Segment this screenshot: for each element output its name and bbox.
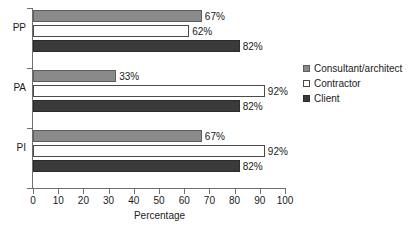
x-tick — [209, 189, 210, 194]
y-tick — [27, 8, 33, 9]
legend-item-consultant[interactable]: Consultant/architect — [303, 62, 402, 75]
bar-pi-client[interactable] — [33, 160, 240, 172]
chart-legend: Consultant/architectContractorClient — [303, 62, 402, 107]
bar-value-pi-contractor: 92% — [266, 146, 289, 158]
x-tick-label: 10 — [45, 195, 71, 207]
bar-pi-contractor[interactable] — [33, 145, 265, 157]
bar-value-pi-consultant: 67% — [203, 131, 226, 143]
x-axis-title: Percentage — [33, 210, 286, 222]
bar-value-pp-client: 82% — [241, 41, 264, 53]
x-tick — [109, 189, 110, 194]
legend-swatch-icon-client — [303, 95, 310, 102]
bar-pa-consultant[interactable] — [33, 70, 116, 82]
bar-pa-contractor[interactable] — [33, 85, 265, 97]
bar-pi-consultant[interactable] — [33, 130, 202, 142]
bar-pp-contractor[interactable] — [33, 25, 189, 37]
legend-item-contractor[interactable]: Contractor — [303, 77, 402, 90]
category-label-pp: PP — [0, 22, 26, 34]
x-tick-label: 0 — [20, 195, 46, 207]
x-tick — [58, 189, 59, 194]
bar-value-pa-consultant: 33% — [117, 71, 140, 83]
legend-item-client[interactable]: Client — [303, 92, 402, 105]
bar-pp-client[interactable] — [33, 40, 240, 52]
category-label-pa: PA — [0, 82, 26, 94]
legend-label: Client — [314, 93, 340, 105]
x-tick-label: 60 — [171, 195, 197, 207]
x-tick-label: 40 — [121, 195, 147, 207]
x-tick-label: 50 — [146, 195, 172, 207]
bar-value-pp-contractor: 62% — [190, 26, 213, 38]
bar-chart: PPPAPI 67%62%82%33%92%82%67%92%82% 01020… — [0, 0, 417, 230]
y-tick — [27, 68, 33, 69]
x-tick — [83, 189, 84, 194]
x-tick-label: 80 — [222, 195, 248, 207]
bar-value-pa-client: 82% — [241, 101, 264, 113]
x-tick — [235, 189, 236, 194]
bar-pa-client[interactable] — [33, 100, 240, 112]
x-tick-label: 90 — [247, 195, 273, 207]
x-tick — [285, 189, 286, 194]
bar-value-pa-contractor: 92% — [266, 86, 289, 98]
x-tick-label: 20 — [70, 195, 96, 207]
y-tick — [27, 128, 33, 129]
x-tick-label: 70 — [196, 195, 222, 207]
x-tick — [260, 189, 261, 194]
legend-swatch-icon-consultant — [303, 65, 310, 72]
category-label-pi: PI — [0, 142, 26, 154]
bar-pp-consultant[interactable] — [33, 10, 202, 22]
x-tick — [33, 189, 34, 194]
x-tick-label: 30 — [96, 195, 122, 207]
legend-label: Consultant/architect — [314, 63, 402, 75]
legend-label: Contractor — [314, 78, 361, 90]
x-tick — [184, 189, 185, 194]
bar-value-pi-client: 82% — [241, 161, 264, 173]
legend-swatch-icon-contractor — [303, 80, 310, 87]
bar-value-pp-consultant: 67% — [203, 11, 226, 23]
x-tick — [134, 189, 135, 194]
x-tick-label: 100 — [272, 195, 298, 207]
x-tick — [159, 189, 160, 194]
